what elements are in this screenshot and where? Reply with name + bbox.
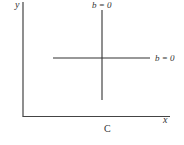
horizontal-line-label: b = 0 (155, 53, 175, 63)
caption-label: C (104, 124, 111, 134)
diagram-canvas (0, 0, 184, 145)
x-axis-label: x (163, 115, 167, 125)
vertical-line-label: b = 0 (92, 0, 112, 10)
y-axis-label: y (15, 0, 19, 10)
